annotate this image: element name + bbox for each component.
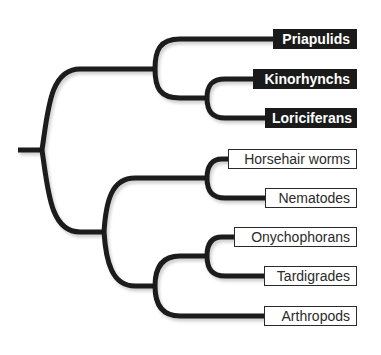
taxon-nematodes: Nematodes xyxy=(265,188,357,208)
branch-kinorhynchs xyxy=(207,79,253,98)
branch-horsehair xyxy=(207,159,228,178)
branch-ota xyxy=(104,232,155,286)
branch-nematodes xyxy=(207,178,265,198)
tree-branches xyxy=(0,0,381,355)
branch-hwn xyxy=(104,178,207,232)
branch-ot xyxy=(155,256,207,286)
taxon-onychophorans: Onychophorans xyxy=(234,227,357,247)
branch-priapulids xyxy=(155,39,273,69)
taxon-loriciferans: Loriciferans xyxy=(265,108,357,128)
branch-tardigrades xyxy=(207,256,264,276)
taxon-tardigrades: Tardigrades xyxy=(264,266,357,286)
branch-root-top xyxy=(42,69,155,150)
taxon-arthropods: Arthropods xyxy=(264,306,357,326)
branch-kl xyxy=(155,69,207,98)
taxon-kinorhynchs: Kinorhynchs xyxy=(253,69,357,89)
taxon-priapulids: Priapulids xyxy=(273,29,357,49)
branch-root-bottom xyxy=(42,150,104,232)
branch-arthropods xyxy=(155,286,264,316)
branch-loriciferans xyxy=(207,98,265,118)
taxon-horsehair-worms: Horsehair worms xyxy=(228,149,357,169)
branch-onychophorans xyxy=(207,237,234,256)
